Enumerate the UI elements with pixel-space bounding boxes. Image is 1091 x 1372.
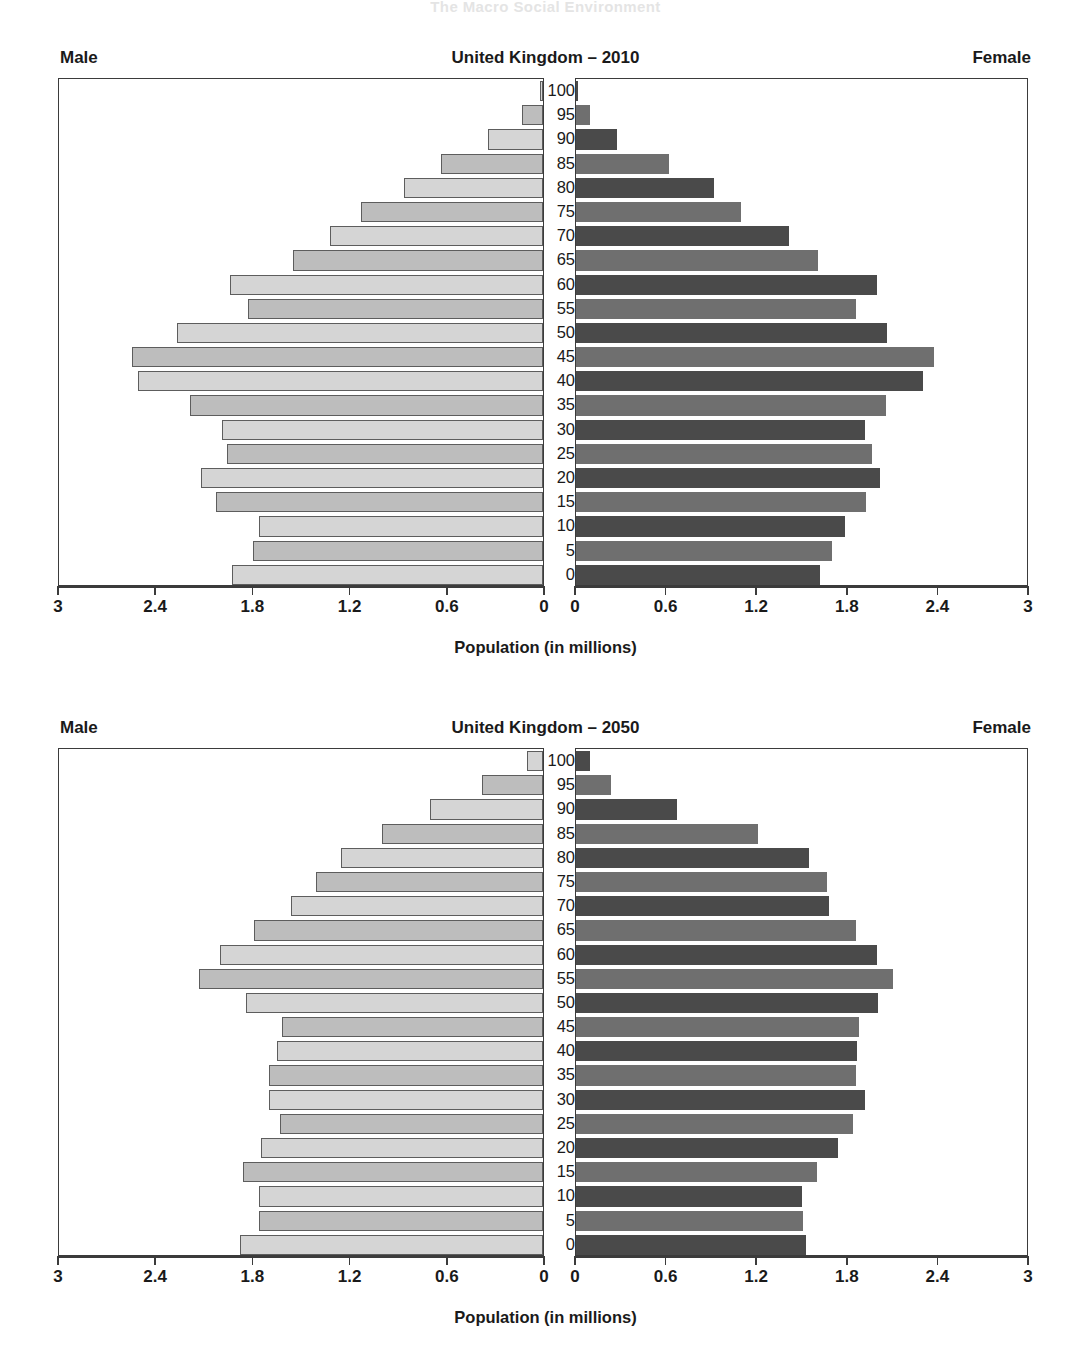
- chart-title: United Kingdom – 2010: [0, 48, 1091, 68]
- male-bar-age-10: [259, 1186, 543, 1206]
- age-label-0: 0: [544, 562, 575, 586]
- age-label-50: 50: [544, 990, 575, 1014]
- age-label-80: 80: [544, 845, 575, 869]
- female-bar-age-45: [576, 347, 934, 367]
- male-bar-age-25: [227, 444, 543, 464]
- age-label-95: 95: [544, 772, 575, 796]
- axis-tick-label-2.4: 2.4: [143, 1267, 167, 1287]
- age-label-80: 80: [544, 175, 575, 199]
- female-bar-age-10: [576, 516, 845, 536]
- male-bar-age-100: [540, 81, 543, 101]
- age-label-70: 70: [544, 893, 575, 917]
- bar-row: [576, 846, 1027, 870]
- bar-row: [59, 894, 543, 918]
- axis-tick: [937, 1256, 939, 1265]
- bar-row: [576, 1015, 1027, 1039]
- age-label-50: 50: [544, 320, 575, 344]
- bar-row: [59, 79, 543, 103]
- male-bar-age-35: [269, 1065, 543, 1085]
- bar-row: [59, 1039, 543, 1063]
- bar-row: [59, 200, 543, 224]
- female-side-label: Female: [972, 718, 1031, 738]
- age-label-85: 85: [544, 151, 575, 175]
- bar-row: [59, 514, 543, 538]
- female-bar-age-95: [576, 105, 590, 125]
- bar-row: [59, 822, 543, 846]
- female-panel: [575, 78, 1028, 586]
- male-bar-age-60: [220, 945, 543, 965]
- age-label-100: 100: [544, 748, 575, 772]
- male-bar-age-5: [253, 541, 543, 561]
- bar-row: [59, 1112, 543, 1136]
- bar-row: [59, 1160, 543, 1184]
- male-bar-age-15: [216, 492, 544, 512]
- female-bar-age-75: [576, 872, 827, 892]
- female-bar-age-0: [576, 1235, 806, 1255]
- bar-row: [576, 490, 1027, 514]
- bar-row: [576, 127, 1027, 151]
- axis-tick-label-3: 3: [1023, 1267, 1032, 1287]
- female-bar-age-85: [576, 824, 758, 844]
- bar-row: [576, 870, 1027, 894]
- age-label-20: 20: [544, 465, 575, 489]
- age-label-75: 75: [544, 869, 575, 893]
- age-label-25: 25: [544, 1111, 575, 1135]
- bar-row: [59, 797, 543, 821]
- population-pyramid-2010: Male United Kingdom – 2010 Female 100959…: [0, 48, 1091, 586]
- axis-tick: [446, 586, 448, 595]
- bar-row: [576, 967, 1027, 991]
- male-bar-age-30: [222, 420, 543, 440]
- age-label-30: 30: [544, 1087, 575, 1111]
- axis-tick-label-3: 3: [53, 1267, 62, 1287]
- bar-row: [576, 345, 1027, 369]
- female-bar-age-20: [576, 1138, 838, 1158]
- axis-tick: [154, 1256, 156, 1265]
- bar-row: [576, 321, 1027, 345]
- bar-row: [59, 1063, 543, 1087]
- age-label-100: 100: [544, 78, 575, 102]
- bar-row: [576, 1209, 1027, 1233]
- male-panel: [58, 78, 544, 586]
- bar-row: [576, 563, 1027, 587]
- age-axis-labels: 1009590858075706560555045403530252015105…: [544, 78, 575, 586]
- female-bar-age-15: [576, 1162, 817, 1182]
- axis-tick-label-2.4: 2.4: [926, 1267, 950, 1287]
- age-label-0: 0: [544, 1232, 575, 1256]
- female-bar-age-15: [576, 492, 866, 512]
- axis-tick-label-2.4: 2.4: [143, 597, 167, 617]
- axis-tick: [937, 586, 939, 595]
- female-bar-age-35: [576, 395, 886, 415]
- male-bar-age-30: [269, 1090, 543, 1110]
- female-bar-age-80: [576, 178, 714, 198]
- bar-row: [576, 79, 1027, 103]
- bar-row: [576, 369, 1027, 393]
- bar-row: [576, 418, 1027, 442]
- age-label-30: 30: [544, 417, 575, 441]
- female-bar-age-30: [576, 420, 865, 440]
- female-bar-age-70: [576, 226, 789, 246]
- axis-tick-label-0.6: 0.6: [435, 597, 459, 617]
- male-bar-age-90: [488, 129, 543, 149]
- age-label-5: 5: [544, 538, 575, 562]
- bar-row: [59, 152, 543, 176]
- age-label-90: 90: [544, 796, 575, 820]
- male-bar-age-90: [430, 799, 543, 819]
- age-axis-labels: 1009590858075706560555045403530252015105…: [544, 748, 575, 1256]
- male-bar-age-20: [261, 1138, 543, 1158]
- female-bar-age-40: [576, 1041, 857, 1061]
- female-bar-age-50: [576, 993, 878, 1013]
- age-label-55: 55: [544, 296, 575, 320]
- female-bar-age-5: [576, 541, 832, 561]
- male-bar-age-65: [254, 920, 543, 940]
- axis-tick: [665, 586, 667, 595]
- bar-row: [59, 1184, 543, 1208]
- bar-row: [59, 539, 543, 563]
- bar-row: [59, 991, 543, 1015]
- male-bar-age-75: [361, 202, 543, 222]
- female-bar-age-100: [576, 81, 578, 101]
- male-bar-age-0: [240, 1235, 543, 1255]
- male-bar-age-85: [441, 154, 543, 174]
- bar-row: [59, 563, 543, 587]
- bar-row: [59, 1209, 543, 1233]
- axis-line: [58, 1256, 544, 1258]
